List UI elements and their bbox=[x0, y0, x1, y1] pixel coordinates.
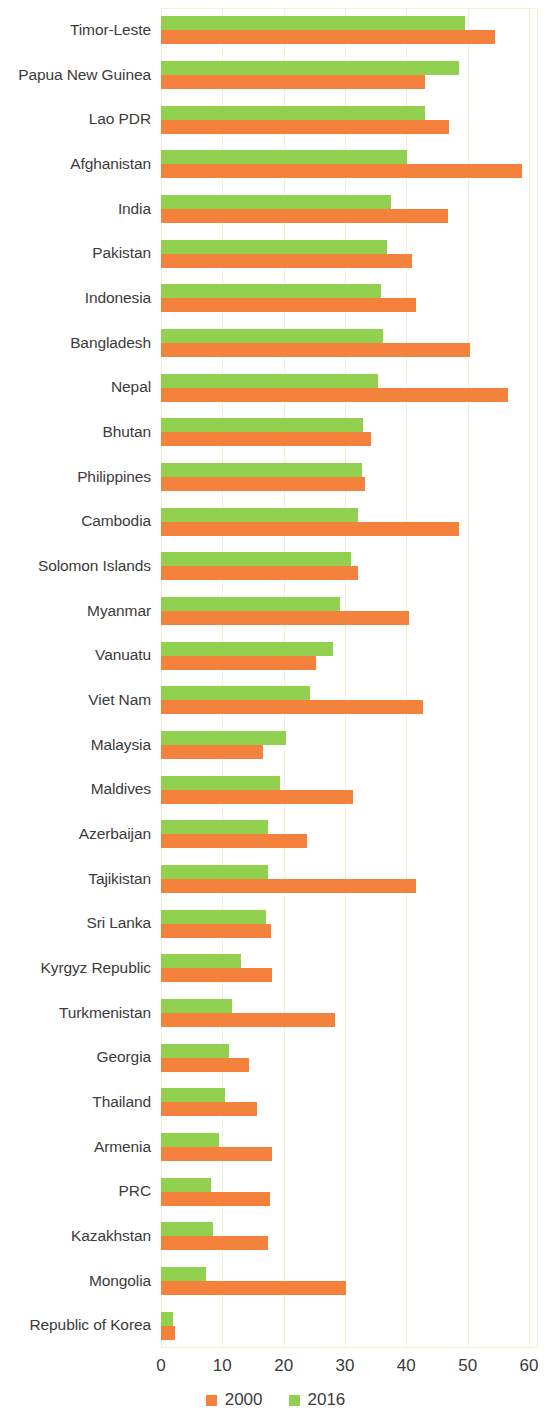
category-label: Thailand bbox=[92, 1080, 151, 1125]
bar-2016 bbox=[161, 1222, 213, 1236]
bar-row: Cambodia bbox=[161, 499, 529, 544]
bar-2000 bbox=[161, 432, 371, 446]
x-tick-label: 60 bbox=[520, 1356, 539, 1376]
bar-2016 bbox=[161, 374, 378, 388]
bar-2016 bbox=[161, 686, 310, 700]
bar-row: Pakistan bbox=[161, 231, 529, 276]
legend-swatch-icon bbox=[289, 1395, 300, 1406]
bar-2000 bbox=[161, 968, 272, 982]
chart-legend: 20002016 bbox=[0, 1390, 551, 1410]
bar-2016 bbox=[161, 1088, 225, 1102]
bar-2016 bbox=[161, 329, 383, 343]
category-label: Vanuatu bbox=[95, 633, 151, 678]
bar-2000 bbox=[161, 209, 448, 223]
bar-2016 bbox=[161, 731, 286, 745]
category-label: Bhutan bbox=[102, 410, 151, 455]
gridline-60 bbox=[529, 8, 530, 1348]
bar-2000 bbox=[161, 30, 495, 44]
category-label: Viet Nam bbox=[88, 678, 151, 723]
horizontal-bar-chart: Timor-LestePapua New GuineaLao PDRAfghan… bbox=[0, 0, 551, 1424]
category-label: Myanmar bbox=[87, 589, 151, 634]
bar-row: Mongolia bbox=[161, 1259, 529, 1304]
category-label: Cambodia bbox=[81, 499, 151, 544]
bar-2016 bbox=[161, 463, 362, 477]
bar-row: Maldives bbox=[161, 767, 529, 812]
category-label: Kazakhstan bbox=[71, 1214, 151, 1259]
bar-2000 bbox=[161, 790, 353, 804]
bar-row: Armenia bbox=[161, 1125, 529, 1170]
x-tick-label: 50 bbox=[458, 1356, 477, 1376]
bar-row: Myanmar bbox=[161, 589, 529, 634]
category-label: Armenia bbox=[94, 1125, 151, 1170]
bar-row: Kazakhstan bbox=[161, 1214, 529, 1259]
category-label: Bangladesh bbox=[70, 321, 151, 366]
category-label: Malaysia bbox=[91, 723, 151, 768]
bar-row: Bhutan bbox=[161, 410, 529, 455]
bar-2016 bbox=[161, 195, 391, 209]
category-label: Kyrgyz Republic bbox=[41, 946, 152, 991]
bar-2000 bbox=[161, 924, 271, 938]
bar-2000 bbox=[161, 745, 263, 759]
category-label: Georgia bbox=[97, 1035, 151, 1080]
bar-2000 bbox=[161, 120, 449, 134]
bar-2000 bbox=[161, 1192, 270, 1206]
bar-2016 bbox=[161, 865, 268, 879]
bar-2000 bbox=[161, 75, 425, 89]
bar-2000 bbox=[161, 834, 307, 848]
bar-2016 bbox=[161, 1267, 206, 1281]
category-label: Tajikistan bbox=[88, 857, 151, 902]
bar-row: Azerbaijan bbox=[161, 812, 529, 857]
bar-row: Malaysia bbox=[161, 723, 529, 768]
category-label: Lao PDR bbox=[89, 97, 151, 142]
bar-2000 bbox=[161, 477, 365, 491]
category-label: India bbox=[118, 187, 151, 232]
bar-2016 bbox=[161, 1133, 219, 1147]
bar-row: Republic of Korea bbox=[161, 1303, 529, 1348]
bar-2000 bbox=[161, 164, 522, 178]
bar-2016 bbox=[161, 61, 459, 75]
bar-row: Viet Nam bbox=[161, 678, 529, 723]
category-label: Pakistan bbox=[92, 231, 151, 276]
category-label: Papua New Guinea bbox=[18, 53, 151, 98]
bar-row: Timor-Leste bbox=[161, 8, 529, 53]
bar-2000 bbox=[161, 656, 316, 670]
category-label: Turkmenistan bbox=[59, 991, 151, 1036]
bar-2016 bbox=[161, 1312, 173, 1326]
bar-2016 bbox=[161, 597, 340, 611]
category-label: Indonesia bbox=[85, 276, 151, 321]
legend-item[interactable]: 2016 bbox=[289, 1390, 346, 1410]
bar-2016 bbox=[161, 150, 407, 164]
bar-row: Lao PDR bbox=[161, 97, 529, 142]
bar-2016 bbox=[161, 776, 280, 790]
category-label: Philippines bbox=[77, 455, 151, 500]
bar-2016 bbox=[161, 240, 387, 254]
bar-row: India bbox=[161, 187, 529, 232]
x-tick-label: 30 bbox=[336, 1356, 355, 1376]
category-label: Timor-Leste bbox=[70, 8, 151, 53]
category-label: Sri Lanka bbox=[86, 901, 151, 946]
category-label: PRC bbox=[119, 1169, 151, 1214]
bar-2016 bbox=[161, 106, 425, 120]
bar-row: Vanuatu bbox=[161, 633, 529, 678]
bar-2016 bbox=[161, 820, 268, 834]
bar-row: Philippines bbox=[161, 455, 529, 500]
bar-row: Tajikistan bbox=[161, 857, 529, 902]
bar-row: Nepal bbox=[161, 365, 529, 410]
bar-rows: Timor-LestePapua New GuineaLao PDRAfghan… bbox=[161, 8, 529, 1348]
category-label: Republic of Korea bbox=[29, 1303, 151, 1348]
plot-area: Timor-LestePapua New GuineaLao PDRAfghan… bbox=[161, 8, 529, 1348]
bar-2016 bbox=[161, 954, 241, 968]
bar-row: Thailand bbox=[161, 1080, 529, 1125]
bar-2000 bbox=[161, 1102, 257, 1116]
category-label: Afghanistan bbox=[70, 142, 151, 187]
x-tick-label: 0 bbox=[156, 1356, 165, 1376]
bar-row: Sri Lanka bbox=[161, 901, 529, 946]
bar-2000 bbox=[161, 566, 358, 580]
bar-2000 bbox=[161, 611, 409, 625]
x-axis: 0102030405060 bbox=[161, 1356, 529, 1382]
bar-2000 bbox=[161, 1147, 272, 1161]
legend-swatch-icon bbox=[206, 1395, 217, 1406]
x-tick-label: 20 bbox=[274, 1356, 293, 1376]
bar-2016 bbox=[161, 1178, 211, 1192]
legend-item[interactable]: 2000 bbox=[206, 1390, 263, 1410]
